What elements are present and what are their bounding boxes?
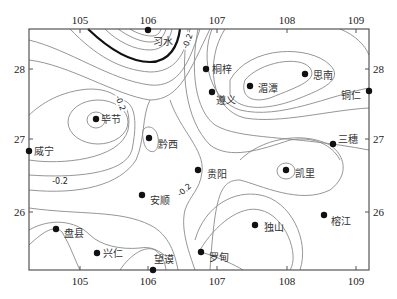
- x-tick-label: 107: [209, 275, 226, 287]
- station-label: 铜仁: [341, 90, 361, 101]
- x-axis-labels-top: 105106107108109: [72, 14, 365, 26]
- station-label: 望谟: [154, 253, 174, 265]
- station-marker: [145, 27, 151, 33]
- weather-stations: 习水桐梓思南湄潭遵义铜仁毕节黔西三穗威宁贵阳凯里安顺榕江独山盘县兴仁罗甸望谟: [26, 27, 372, 273]
- station-label: 湄潭: [258, 83, 278, 94]
- x-tick-label: 106: [140, 14, 157, 26]
- station-marker: [302, 71, 308, 77]
- station-label: 独山: [264, 221, 284, 233]
- y-tick-label: 26: [373, 206, 385, 218]
- x-tick-label: 108: [279, 14, 296, 26]
- y-tick-label: 27: [14, 133, 26, 145]
- y-tick-label: 28: [14, 63, 26, 75]
- contour-value-label: -0.2: [181, 32, 195, 50]
- station-marker: [247, 83, 253, 89]
- contour-map: 105106107108109 105106107108109 282726 2…: [0, 0, 397, 299]
- x-tick-label: 105: [72, 14, 89, 26]
- station-label: 贵阳: [207, 168, 227, 180]
- x-tick-label: 108: [279, 275, 296, 287]
- station-marker: [93, 116, 99, 122]
- y-tick-label: 27: [373, 133, 385, 145]
- station-label: 榕江: [331, 215, 351, 227]
- y-axis-labels-left: 282726: [14, 63, 26, 218]
- x-tick-label: 107: [209, 14, 226, 26]
- x-tick-label: 105: [72, 275, 89, 287]
- station-marker: [195, 167, 201, 173]
- station-marker: [26, 148, 32, 154]
- station-marker: [203, 66, 209, 72]
- station-marker: [139, 192, 145, 198]
- y-axis-labels-right: 282726: [373, 63, 385, 218]
- station-marker: [198, 249, 204, 255]
- x-tick-label: 106: [140, 275, 157, 287]
- station-label: 遵义: [216, 94, 236, 106]
- station-label: 黔西: [158, 138, 178, 150]
- x-tick-label: 109: [348, 275, 365, 287]
- station-marker: [283, 167, 289, 173]
- station-marker: [252, 222, 258, 228]
- station-marker: [366, 88, 372, 94]
- station-label: 罗甸: [209, 251, 229, 263]
- station-label: 威宁: [34, 145, 54, 157]
- station-label: 思南: [313, 69, 333, 81]
- y-tick-label: 28: [373, 63, 385, 75]
- station-marker: [53, 226, 59, 232]
- station-label: 毕节: [101, 113, 121, 125]
- x-axis-labels-bottom: 105106107108109: [72, 275, 365, 287]
- station-label: 三穗: [338, 133, 358, 145]
- station-marker: [150, 267, 156, 273]
- station-marker: [94, 250, 100, 256]
- station-label: 安顺: [150, 194, 170, 206]
- station-label: 桐梓: [212, 63, 232, 75]
- x-tick-label: 109: [348, 14, 365, 26]
- station-label: 凯里: [295, 167, 315, 179]
- station-marker: [146, 135, 152, 141]
- y-tick-label: 26: [14, 206, 26, 218]
- contour-value-label: -0.2: [113, 94, 127, 112]
- station-marker: [321, 212, 327, 218]
- station-label: 兴仁: [103, 248, 123, 259]
- station-label: 习水: [153, 36, 173, 47]
- station-marker: [209, 89, 215, 95]
- contour-value-label: -0.2: [52, 177, 68, 186]
- station-marker: [330, 141, 336, 147]
- station-label: 盘县: [64, 227, 84, 239]
